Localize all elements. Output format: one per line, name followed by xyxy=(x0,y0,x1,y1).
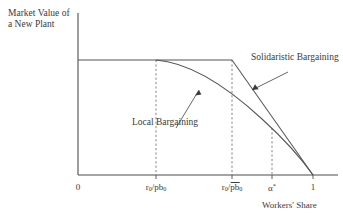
y-axis-title-line2: a New Plant xyxy=(8,19,54,29)
x-tick-label-origin: 0 xyxy=(76,182,81,192)
tick2-denominator-overbar: pb xyxy=(230,182,239,192)
solidaristic-bargaining-leader xyxy=(252,72,288,90)
x-axis-title: Workers' Share xyxy=(262,200,317,210)
x-tick-label-r0-pb0: r0/pb0 xyxy=(146,182,167,192)
x-axis-tick-marks xyxy=(156,175,313,179)
tick1-denominator-sub: 0 xyxy=(163,186,166,192)
chart-plot-area xyxy=(0,0,343,222)
tick2-denominator-sub: 0 xyxy=(239,186,242,192)
tick1-numerator-sub: 0 xyxy=(149,186,152,192)
chart-figure: Market Value of a New Plant Workers' Sha… xyxy=(0,0,343,222)
x-tick-label-r0-pbarbbar0: r0/pb0 xyxy=(222,182,243,192)
tick2-numerator-sub: 0 xyxy=(225,186,228,192)
alpha-star-glyph: * xyxy=(273,182,276,189)
local-bargaining-label: Local Bargaining xyxy=(132,117,198,127)
solidaristic-bargaining-label: Solidaristic Bargaining xyxy=(251,52,339,62)
y-axis-title: Market Value of a New Plant xyxy=(8,8,78,30)
y-axis-title-line1: Market Value of xyxy=(8,8,70,18)
x-tick-label-alpha-star: α* xyxy=(268,182,276,193)
solidaristic-bargaining-line xyxy=(232,60,313,175)
x-tick-label-one: 1 xyxy=(311,182,316,192)
